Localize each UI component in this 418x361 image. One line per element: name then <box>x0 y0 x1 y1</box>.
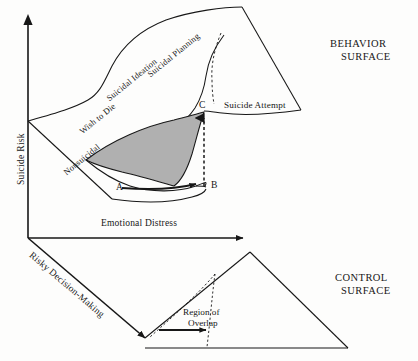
point-label-c: C <box>199 100 205 111</box>
point-label-a: A <box>116 182 123 193</box>
behavior-surface-caption-line2: SURFACE <box>341 51 391 63</box>
x-axis-label: Emotional Distress <box>101 218 177 229</box>
behavior-surface-caption-line1: BEHAVIOR <box>330 38 387 50</box>
z-axis <box>28 238 145 338</box>
cusp-pleat-shaded-region <box>86 112 204 186</box>
y-axis-label: Suicide Risk <box>16 133 27 185</box>
control-surface-outline <box>145 252 348 348</box>
point-label-b: B <box>211 180 217 191</box>
region-of-overlap-label-line2: Overlap <box>188 318 218 329</box>
region-of-overlap-label-line1: Region of <box>183 307 220 318</box>
control-surface-caption-line1: CONTROL <box>335 272 388 284</box>
cusp-catastrophe-figure: Suicide Risk Emotional Distress Risky De… <box>0 0 418 361</box>
y-axis <box>23 14 32 238</box>
y-axis-arrowhead <box>23 14 32 25</box>
control-surface-caption-line2: SURFACE <box>341 285 391 297</box>
region-label-suicide-attempt: Suicide Attempt <box>224 100 286 110</box>
